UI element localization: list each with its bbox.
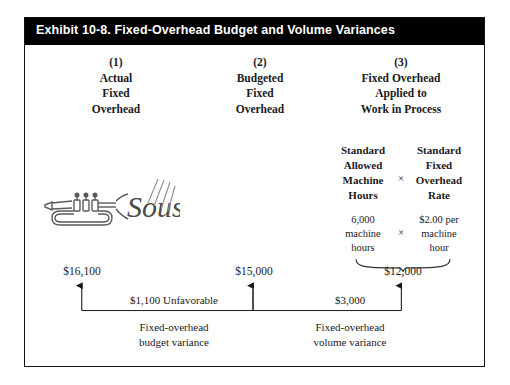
column-2-header: (2) Budgeted Fixed Overhead — [190, 55, 330, 117]
sub-right-line-1: Standard — [408, 143, 470, 158]
val-right-line-1: $2.00 per — [408, 213, 470, 227]
column-3-number: (3) — [325, 55, 477, 71]
column-3-line-1: Fixed Overhead — [325, 71, 477, 87]
applied-fixed-overhead-amount: $12,000 — [356, 265, 450, 277]
budget-variance-caption: Fixed-overhead budget variance — [83, 320, 265, 350]
budgeted-fixed-overhead-amount: $15,000 — [207, 265, 301, 277]
column-1-number: (1) — [46, 55, 186, 71]
exhibit-frame: Exhibit 10-8. Fixed-Overhead Budget and … — [24, 17, 485, 367]
column-1-header: (1) Actual Fixed Overhead — [46, 55, 186, 117]
exhibit-title: Exhibit 10-8. Fixed-Overhead Budget and … — [36, 23, 395, 37]
trumpet-sousa-icon: Sousa — [30, 173, 180, 245]
exhibit-body: (1) Actual Fixed Overhead (2) Budgeted F… — [25, 45, 484, 367]
val-left-line-2: machine — [332, 227, 394, 241]
column-1-line-2: Fixed — [46, 86, 186, 102]
machine-hours-value: 6,000 machine hours — [332, 213, 394, 255]
volume-variance-caption-line-1: Fixed-overhead — [260, 320, 440, 335]
column-2-line-3: Overhead — [190, 102, 330, 118]
sub-right-line-4: Rate — [408, 188, 470, 203]
val-left-line-1: 6,000 — [332, 213, 394, 227]
column-1-line-3: Overhead — [46, 102, 186, 118]
volume-variance-amount: $3,000 — [260, 294, 440, 306]
multiply-icon: × — [394, 143, 408, 184]
sub-right-line-3: Overhead — [408, 173, 470, 188]
budget-variance-amount: $1,100 Unfavorable — [83, 294, 265, 306]
column-2-line-2: Fixed — [190, 86, 330, 102]
sub-left-line-1: Standard — [332, 143, 394, 158]
exhibit-title-bar: Exhibit 10-8. Fixed-Overhead Budget and … — [25, 18, 484, 45]
val-right-line-3: hour — [408, 241, 470, 255]
sub-right-line-2: Fixed — [408, 158, 470, 173]
standard-allowed-machine-hours-label: Standard Allowed Machine Hours — [332, 143, 394, 203]
volume-variance-caption-line-2: volume variance — [260, 335, 440, 350]
column-2-number: (2) — [190, 55, 330, 71]
sub-left-line-2: Allowed — [332, 158, 394, 173]
overhead-rate-value: $2.00 per machine hour — [408, 213, 470, 255]
sub-left-line-3: Machine — [332, 173, 394, 188]
val-left-line-3: hours — [332, 241, 394, 255]
column-3-header: (3) Fixed Overhead Applied to Work in Pr… — [325, 55, 477, 117]
column-2-line-1: Budgeted — [190, 71, 330, 87]
actual-fixed-overhead-amount: $16,100 — [35, 265, 129, 277]
val-right-line-2: machine — [408, 227, 470, 241]
multiply-icon-values: × — [394, 213, 408, 238]
column-1-line-1: Actual — [46, 71, 186, 87]
sub-left-line-4: Hours — [332, 188, 394, 203]
volume-variance-caption: Fixed-overhead volume variance — [260, 320, 440, 350]
column-3-line-3: Work in Process — [325, 102, 477, 118]
column-3-subheaders: Standard Allowed Machine Hours × Standar… — [325, 143, 477, 203]
budget-variance-caption-line-1: Fixed-overhead — [83, 320, 265, 335]
budget-variance-caption-line-2: budget variance — [83, 335, 265, 350]
column-3-line-2: Applied to — [325, 86, 477, 102]
standard-fixed-overhead-rate-label: Standard Fixed Overhead Rate — [408, 143, 470, 203]
column-3-subvalues: 6,000 machine hours × $2.00 per machine … — [325, 213, 477, 255]
